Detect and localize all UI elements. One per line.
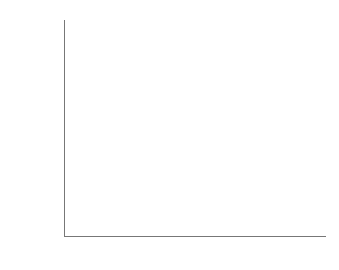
y-axis-line — [64, 20, 65, 236]
x-axis-line — [64, 236, 326, 237]
y-axis-label — [9, 77, 29, 207]
